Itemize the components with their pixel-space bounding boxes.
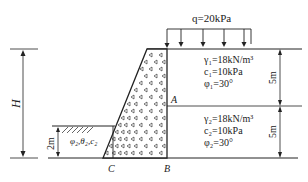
layer1-arrow-top xyxy=(278,49,282,55)
point-a-label: A xyxy=(170,94,178,105)
front-depth-label: 2m xyxy=(45,137,56,150)
layer2-thickness-label: 5m xyxy=(267,125,278,138)
front-depth-arrow-top xyxy=(56,127,60,132)
h-arrow-bottom xyxy=(21,151,26,157)
layer1-thickness-label: 5m xyxy=(267,71,278,84)
retaining-wall xyxy=(103,49,167,158)
layer2-arrow-top xyxy=(278,106,282,112)
front-depth-arrow-bottom xyxy=(56,152,60,157)
layer1-friction-angle: φ₁=30° xyxy=(204,78,233,89)
front-soil-label: φ₂,θ₂,c₂ xyxy=(70,136,97,146)
point-c-label: C xyxy=(108,163,115,174)
layer2-friction-angle: φ₂=30° xyxy=(204,137,233,148)
load-arrowheads xyxy=(165,42,247,48)
layer2-arrow-bottom xyxy=(278,152,282,158)
layer1-gamma: γ₁=18kN/m³ xyxy=(203,54,253,65)
front-soil xyxy=(52,126,115,133)
layer1-cohesion: c₁=10kPa xyxy=(204,66,243,77)
layer2-gamma: γ₂=18kN/m³ xyxy=(203,113,253,124)
load-label: q=20kPa xyxy=(192,12,231,24)
retaining-wall-diagram: q=20kPa xyxy=(0,0,308,182)
layer2-cohesion: c₂=10kPa xyxy=(204,125,243,136)
layer1-arrow-bottom xyxy=(278,100,282,106)
h-arrow-top xyxy=(21,50,26,56)
height-label: H xyxy=(9,98,23,109)
point-b-label: B xyxy=(164,163,170,174)
